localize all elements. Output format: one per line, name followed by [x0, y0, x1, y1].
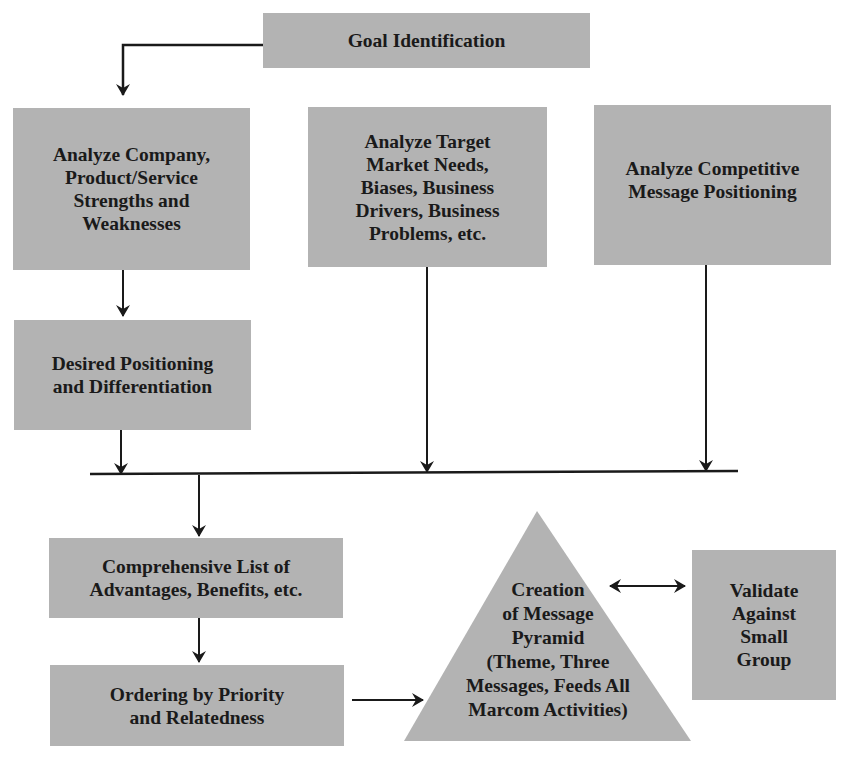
arrow-goal-to-company	[123, 45, 263, 95]
ordering-label: Ordering by Priority and Relatedness	[110, 683, 284, 729]
desired-positioning-label: Desired Positioning and Differentiation	[52, 352, 214, 398]
analyze-competitive-box: Analyze Competitive Message Positioning	[594, 105, 831, 265]
merge-bar	[90, 471, 738, 474]
desired-positioning-box: Desired Positioning and Differentiation	[14, 320, 251, 430]
analyze-competitive-label: Analyze Competitive Message Positioning	[626, 157, 800, 203]
analyze-company-box: Analyze Company, Product/Service Strengt…	[13, 108, 250, 270]
analyze-target-market-box: Analyze Target Market Needs, Biases, Bus…	[308, 107, 547, 267]
ordering-box: Ordering by Priority and Relatedness	[50, 665, 344, 746]
analyze-company-label: Analyze Company, Product/Service Strengt…	[53, 143, 210, 235]
goal-identification-box: Goal Identification	[263, 13, 590, 68]
comprehensive-list-label: Comprehensive List of Advantages, Benefi…	[90, 555, 303, 601]
analyze-target-market-label: Analyze Target Market Needs, Biases, Bus…	[355, 130, 499, 245]
validate-label: Validate Against Small Group	[730, 579, 799, 671]
comprehensive-list-box: Comprehensive List of Advantages, Benefi…	[49, 538, 343, 618]
validate-box: Validate Against Small Group	[692, 550, 836, 700]
message-pyramid-label: Creation of Message Pyramid (Theme, Thre…	[404, 578, 692, 722]
goal-identification-label: Goal Identification	[348, 29, 506, 52]
